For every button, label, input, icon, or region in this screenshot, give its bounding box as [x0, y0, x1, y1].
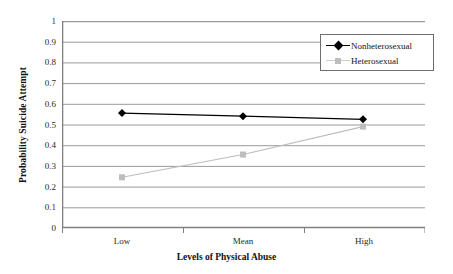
y-tick-label: 0.4 — [30, 140, 56, 150]
diamond-marker-icon — [325, 40, 351, 52]
y-tick-label: 0.5 — [30, 120, 56, 130]
y-tick-label: 0.8 — [30, 57, 56, 67]
legend-label: Heterosexual — [351, 55, 398, 67]
data-point-marker — [360, 124, 366, 130]
legend-label: Nonheterosexual — [351, 40, 412, 52]
data-point-marker — [118, 109, 126, 117]
y-tick-label: 1 — [30, 16, 56, 26]
data-series-layer — [118, 109, 367, 180]
chart-figure: Probability Suicide Attempt 1 0.9 0.8 0.… — [0, 0, 453, 274]
y-tick-label: 0.3 — [30, 161, 56, 171]
y-tick-label: 0.6 — [30, 99, 56, 109]
x-tick-label-low: Low — [114, 236, 131, 246]
series-1 — [118, 109, 367, 123]
y-tick-label: 0.7 — [30, 78, 56, 88]
y-tick-label: 0.1 — [30, 202, 56, 212]
data-point-marker — [119, 174, 125, 180]
data-point-marker — [240, 152, 246, 158]
legend-item-heterosexual: Heterosexual — [325, 53, 429, 68]
x-axis-tick-labels: Low Mean High — [0, 236, 453, 252]
x-axis-ticks — [63, 228, 426, 233]
x-tick-label-high: High — [355, 236, 373, 246]
y-tick-label: 0 — [30, 223, 56, 233]
y-tick-label: 0.9 — [30, 37, 56, 47]
legend-item-nonheterosexual: Nonheterosexual — [325, 38, 429, 53]
y-tick-label: 0.2 — [30, 182, 56, 192]
y-axis-tick-labels: 1 0.9 0.8 0.7 0.6 0.5 0.4 0.3 0.2 0.1 0 — [28, 0, 56, 274]
data-point-marker — [359, 115, 367, 123]
x-tick-label-mean: Mean — [233, 236, 254, 246]
series-2 — [119, 124, 366, 181]
square-marker-icon — [325, 55, 351, 67]
data-point-marker — [239, 112, 247, 120]
x-axis-title: Levels of Physical Abuse — [0, 252, 453, 262]
chart-legend: Nonheterosexual Heterosexual — [320, 34, 434, 71]
